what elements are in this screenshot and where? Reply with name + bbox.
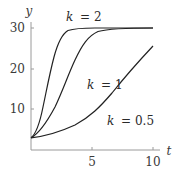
curve-label-k-2-var: k	[66, 10, 73, 24]
curve-label-k-1: k = 1	[87, 78, 123, 92]
curve-label-k-2: k = 2	[66, 10, 102, 24]
x-tick-label-5: 5	[88, 155, 96, 169]
curve-label-k-0.5-var: k	[107, 114, 114, 128]
y-axis-label: y	[25, 4, 33, 18]
y-tick-label-10: 10	[10, 102, 25, 116]
x-tick-label-10: 10	[145, 155, 160, 169]
curve-label-k-1-val: = 1	[101, 78, 123, 92]
curve-label-k-0.5-val: = 0.5	[121, 114, 154, 128]
curve-label-k-0.5: k = 0.5	[107, 114, 154, 128]
logistic-growth-chart: 30 20 10 5 10 y t k = 2 k = 1 k = 0.5	[0, 0, 178, 171]
curve-label-k-2-val: = 2	[80, 10, 102, 24]
y-tick-label-30: 30	[10, 21, 25, 35]
curve-label-k-1-var: k	[87, 78, 94, 92]
y-tick-label-20: 20	[10, 62, 25, 76]
x-axis-label: t	[167, 144, 172, 158]
